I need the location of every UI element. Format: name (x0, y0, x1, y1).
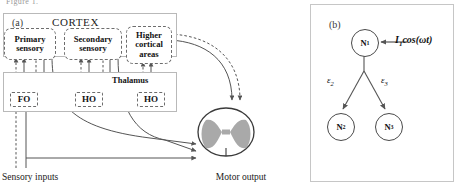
module-higher-cortical-areas: Higher cortical areas (126, 26, 172, 64)
module-primary-sensory: Primary sensory (4, 28, 56, 60)
figure-canvas: Figure 1. (0, 0, 456, 184)
motor-output-label: Motor output (186, 172, 296, 182)
panel-a: (a) CORTEX Primary sensory Secondary sen… (0, 8, 300, 184)
node-n1: N1 (351, 29, 379, 57)
drive-expression: cos(ωt) (402, 34, 432, 45)
module-primary-sensory-line2: sensory (16, 44, 44, 53)
node-n2-sub: 2 (343, 124, 346, 130)
node-n1-sub: 1 (367, 40, 370, 46)
module-higher-cortical-line3: areas (139, 50, 158, 59)
module-secondary-sensory-line2: sensory (79, 44, 107, 53)
clipped-caption: Figure 1. (6, 0, 126, 7)
epsilon-2-sub: 2 (331, 80, 334, 87)
panel-b: (b) N1 N2 N3 I1cos(ωt) ε2 ε3 (310, 4, 454, 182)
node-n3-sub: 3 (391, 124, 394, 130)
thalamus-title: Thalamus (112, 75, 148, 85)
drive-current-label: I1cos(ωt) (395, 34, 432, 48)
nucleus-ho-2: HO (137, 92, 165, 107)
module-secondary-sensory: Secondary sensory (64, 28, 122, 60)
node-n3: N3 (375, 113, 403, 141)
epsilon-3-sub: 3 (385, 80, 388, 87)
edge-label-epsilon-2: ε2 (327, 75, 334, 87)
panel-b-letter: (b) (329, 19, 341, 30)
node-n2: N2 (327, 113, 355, 141)
sensory-inputs-label: Sensory inputs (2, 172, 58, 182)
cortex-title: CORTEX (52, 16, 99, 28)
panel-a-letter: (a) (12, 17, 23, 28)
edge-label-epsilon-3: ε3 (381, 75, 388, 87)
nucleus-fo: FO (10, 92, 38, 107)
nucleus-ho-1: HO (75, 92, 103, 107)
panel-b-connectors (311, 5, 453, 181)
